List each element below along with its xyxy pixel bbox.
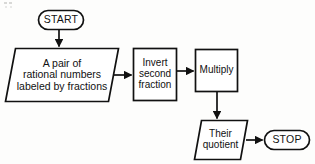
node-quotient-shape[interactable] — [195, 121, 248, 160]
node-stop-shape[interactable] — [265, 131, 310, 150]
node-invert-shape[interactable] — [134, 49, 177, 101]
flowchart-figure: START A pair of rational numbers labeled… — [0, 0, 315, 164]
flowchart-shapes-layer — [0, 0, 315, 164]
node-multiply-shape[interactable] — [196, 50, 238, 92]
node-start-shape[interactable] — [39, 11, 84, 30]
node-input-pair-shape[interactable] — [6, 49, 119, 102]
